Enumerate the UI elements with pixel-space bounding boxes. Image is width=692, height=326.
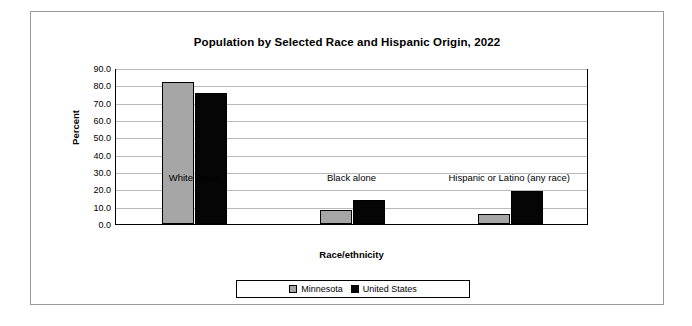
y-axis-tick-label: 80.0 (65, 81, 111, 91)
legend-item: Minnesota (289, 284, 343, 294)
y-axis-tick-label: 50.0 (65, 133, 111, 143)
y-axis-tick-labels: 0.010.020.030.040.050.060.070.080.090.0 (61, 69, 111, 225)
bar-minnesota (320, 210, 352, 224)
x-axis-tick-label: White alone (115, 172, 273, 183)
y-axis-tick-label: 40.0 (65, 151, 111, 161)
legend-item: United States (351, 284, 417, 294)
bar-united-states (195, 93, 227, 224)
y-axis-tick-label: 0.0 (65, 220, 111, 230)
x-axis-title: Race/ethnicity (115, 249, 588, 260)
gridline (116, 69, 587, 70)
chart-frame: Population by Selected Race and Hispanic… (30, 11, 664, 305)
legend-label-united-states: United States (363, 284, 417, 294)
y-axis-tick-label: 90.0 (65, 64, 111, 74)
y-axis-tick-label: 10.0 (65, 203, 111, 213)
chart-legend: Minnesota United States (236, 280, 470, 298)
legend-label-minnesota: Minnesota (301, 284, 343, 294)
y-axis-tick-label: 70.0 (65, 99, 111, 109)
y-axis-tick-label: 60.0 (65, 116, 111, 126)
y-axis-tick-label: 30.0 (65, 168, 111, 178)
chart-image: Population by Selected Race and Hispanic… (0, 0, 692, 326)
y-axis-tick-label: 20.0 (65, 185, 111, 195)
x-axis-tick-label: Hispanic or Latino (any race) (430, 172, 588, 183)
x-axis-tick-label: Black alone (273, 172, 431, 183)
plot-area (115, 69, 588, 225)
bar-united-states (353, 200, 385, 224)
legend-swatch-minnesota (289, 285, 297, 293)
bar-minnesota (478, 214, 510, 224)
bar-united-states (511, 191, 543, 224)
bar-minnesota (162, 82, 194, 224)
legend-swatch-united-states (351, 285, 359, 293)
chart-title: Population by Selected Race and Hispanic… (31, 36, 663, 48)
